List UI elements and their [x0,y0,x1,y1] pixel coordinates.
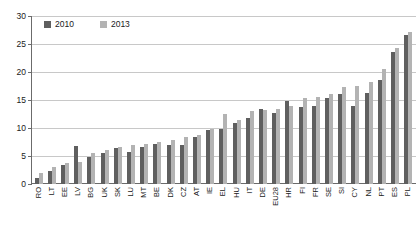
y-axis-tick-label: 10 [17,124,26,133]
x-axis-tick-cell: BG [85,186,98,226]
bar-ES-2013 [395,48,399,184]
x-axis-tick-cell: DK [164,186,177,226]
bar-NL-2013 [369,82,373,184]
bar-IT-2013 [250,111,254,184]
bar-group [190,16,203,184]
bar-group [375,16,388,184]
x-axis-tick-label: FI [299,187,307,194]
bar-group [388,16,401,184]
x-axis-tick-cell: LT [45,186,58,226]
bar-group [85,16,98,184]
x-axis-tick-label: HU [233,187,241,198]
x-axis-tick-cell: SI [336,186,349,226]
bar-CZ-2013 [184,137,188,184]
x-axis-tick-label: SE [325,187,333,197]
bar-MT-2013 [144,144,148,184]
x-axis-tick-label: SK [114,187,122,197]
bar-group [124,16,137,184]
y-axis-tick [28,184,32,185]
bar-group [243,16,256,184]
bar-group [98,16,111,184]
bar-group [72,16,85,184]
bar-LV-2013 [78,162,82,184]
x-axis-tick-label: UK [101,187,109,197]
bar-HU-2013 [237,120,241,184]
bar-LU-2013 [131,145,135,184]
bar-group [32,16,45,184]
x-axis-tick-cell: FI [296,186,309,226]
x-axis-tick-cell: AT [190,186,203,226]
x-axis-tick-cell: IE [204,186,217,226]
bar-CY-2013 [355,86,359,184]
y-axis-tick-label: 0 [21,180,26,189]
bar-group [349,16,362,184]
bar-group [336,16,349,184]
x-axis-tick-label: SI [339,187,347,194]
bar-group [164,16,177,184]
x-axis-tick-cell: EL [217,186,230,226]
bar-EU28-2013 [276,109,280,184]
x-axis-tick-label: EU28 [273,187,281,206]
legend-label-2010: 2010 [55,20,74,29]
bar-EE-2013 [65,163,69,184]
x-axis-tick-label: EE [61,187,69,197]
bar-group [111,16,124,184]
legend: 2010 2013 [44,20,130,29]
y-axis-tick-label: 20 [17,68,26,77]
x-axis-tick-cell: EU28 [270,186,283,226]
x-axis-tick-label: LV [74,187,82,196]
bar-group [138,16,151,184]
x-axis-tick-label: AT [193,187,201,196]
bar-group [230,16,243,184]
x-axis-tick-cell: HU [230,186,243,226]
bar-group [217,16,230,184]
x-axis-tick-label: MT [140,187,148,198]
x-axis-tick-cell: SK [111,186,124,226]
bar-group [204,16,217,184]
bar-group [151,16,164,184]
bar-IE-2013 [210,129,214,184]
bar-group [322,16,335,184]
bar-group [402,16,415,184]
x-axis-tick-cell: CY [349,186,362,226]
bar-SK-2013 [118,147,122,184]
x-axis-tick-label: PL [405,187,413,196]
x-axis-tick-label: NL [365,187,373,197]
x-axis-tick-label: DE [259,187,267,197]
bar-group [58,16,71,184]
legend-item-2013: 2013 [100,20,130,29]
bar-group [296,16,309,184]
x-axis-tick-label: DK [167,187,175,197]
x-axis-tick-cell: BE [151,186,164,226]
bar-SE-2013 [329,94,333,184]
bar-group [256,16,269,184]
legend-item-2010: 2010 [44,20,74,29]
bar-BG-2013 [91,153,95,184]
x-axis-tick-cell: HR [283,186,296,226]
y-axis-tick-label: 25 [17,40,26,49]
x-axis-tick-cell: MT [138,186,151,226]
bar-group [362,16,375,184]
bar-DE-2013 [263,110,267,184]
x-axis-tick-label: EL [220,187,228,196]
bar-HR-2013 [289,106,293,184]
x-axis-tick-label: RO [35,187,43,198]
x-axis-tick-cell: CZ [177,186,190,226]
x-axis-tick-cell: LU [124,186,137,226]
x-axis-tick-cell: ES [388,186,401,226]
x-axis-tick-label: HR [286,187,294,198]
legend-swatch-icon-2013 [100,21,107,28]
x-axis-tick-cell: DE [256,186,269,226]
x-axis-tick-label: CY [352,187,360,197]
x-axis-tick-label: FR [312,187,320,197]
x-axis-tick-cell: NL [362,186,375,226]
bar-EL-2013 [223,114,227,184]
bar-group [270,16,283,184]
y-axis-tick-label: 30 [17,12,26,21]
x-axis-tick-label: BG [88,187,96,198]
bar-DK-2013 [171,140,175,184]
bar-group [309,16,322,184]
x-axis-tick-label: ES [391,187,399,197]
bar-group [45,16,58,184]
x-axis-tick-cell: UK [98,186,111,226]
